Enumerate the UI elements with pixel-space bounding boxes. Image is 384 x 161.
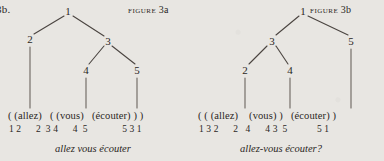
figure-3a-tree-lines [0, 0, 192, 161]
bracket-row: ( (allez) ( (vous) (écouter) ) ) [8, 110, 143, 121]
phrase-caption: allez-vous écouter? [240, 143, 322, 154]
index-number-row: 1 3 2 2 4 4 3 5 5 1 [199, 124, 329, 134]
tree-node-3: 3 [105, 36, 111, 47]
bracket-row: ( ( (allez) (vous) ) (écouter) ) [198, 110, 336, 121]
tree-node-1: 1 [65, 6, 71, 17]
index-number-row: 1 2 2 3 4 4 5 5 3 1 [9, 124, 142, 134]
tree-node-1: 1 [300, 6, 306, 17]
figure-3b-panel: FIGURE 3b 1 3 5 2 4 ( ( (allez) (vous) )… [192, 0, 384, 161]
tree-node-2: 2 [242, 65, 248, 76]
tree-node-4: 4 [83, 65, 89, 76]
tree-node-4: 4 [287, 65, 293, 76]
tree-node-2: 2 [27, 34, 33, 45]
phrase-caption: allez vous écouter [55, 143, 131, 154]
figure-3a-panel: 3b. FIGURE 3a 1 2 3 4 5 ( (allez) ( (vou… [0, 0, 192, 161]
figure-sheet: 3b. FIGURE 3a 1 2 3 4 5 ( (allez) ( (vou… [0, 0, 384, 161]
tree-node-5: 5 [134, 65, 140, 76]
tree-node-3: 3 [269, 36, 275, 47]
tree-node-5: 5 [348, 36, 354, 47]
figure-3b-tree-lines [192, 0, 384, 161]
